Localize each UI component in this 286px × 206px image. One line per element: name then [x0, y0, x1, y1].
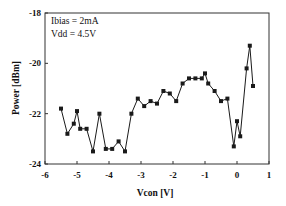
data-point-marker [174, 99, 178, 103]
data-point-marker [181, 82, 185, 86]
data-point-marker [65, 132, 69, 136]
data-point-marker [251, 84, 255, 88]
data-point-marker [232, 144, 236, 148]
data-point-marker [219, 99, 223, 103]
data-point-marker [91, 149, 95, 153]
data-point-marker [110, 147, 114, 151]
data-point-marker [59, 107, 63, 111]
data-point-marker [78, 127, 82, 131]
data-point-marker [104, 147, 108, 151]
power-series-line [61, 46, 253, 152]
data-point-marker [225, 97, 229, 101]
data-point-marker [123, 149, 127, 153]
data-point-marker [206, 82, 210, 86]
data-point-marker [136, 97, 140, 101]
x-tick-label: -5 [73, 170, 81, 180]
data-point-marker [203, 71, 207, 75]
data-point-marker [161, 89, 165, 93]
annotation-vdd: Vdd = 4.5V [51, 29, 96, 39]
data-point-marker [129, 112, 133, 116]
annotation-ibias: Ibias = 2mA [51, 16, 99, 26]
y-tick-label: -22 [29, 109, 41, 119]
data-point-marker [142, 104, 146, 108]
data-point-marker [97, 112, 101, 116]
x-tick-label: 1 [267, 170, 272, 180]
x-tick-label: -4 [105, 170, 113, 180]
data-point-marker [238, 134, 242, 138]
data-point-marker [72, 122, 76, 126]
data-point-marker [155, 102, 159, 106]
power-vs-vcon-chart: -18-20-22-24 -6-5-4-3-2-101 Ibias = 2mA … [0, 0, 286, 206]
data-point-marker [75, 109, 79, 113]
data-point-marker [187, 76, 191, 80]
x-tick-label: -2 [169, 170, 177, 180]
data-point-marker [245, 66, 249, 70]
x-tick-label: -6 [41, 170, 49, 180]
data-point-marker [235, 119, 239, 123]
x-axis-title: Vcon [V] [137, 188, 174, 198]
data-point-marker [168, 92, 172, 96]
data-point-marker [85, 127, 89, 131]
data-point-marker [213, 89, 217, 93]
y-tick-label: -20 [29, 58, 41, 68]
x-tick-label: -1 [201, 170, 209, 180]
y-tick-label: -18 [29, 8, 41, 18]
data-point-marker [200, 76, 204, 80]
y-axis-title: Power [dBm] [11, 61, 21, 115]
data-point-marker [149, 99, 153, 103]
data-point-marker [117, 139, 121, 143]
x-tick-label: -3 [137, 170, 145, 180]
y-tick-label: -24 [29, 159, 41, 169]
data-point-marker [248, 44, 252, 48]
x-tick-label: 0 [235, 170, 240, 180]
data-point-marker [193, 76, 197, 80]
